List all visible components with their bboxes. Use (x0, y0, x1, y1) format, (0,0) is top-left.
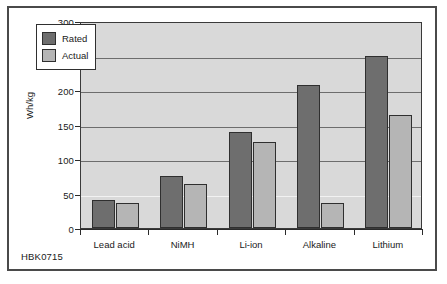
bar-actual-alkaline (321, 203, 344, 228)
y-axis-tick-label: 150 (58, 120, 74, 131)
y-axis-tick-label: 50 (63, 189, 74, 200)
legend-swatch-rated-icon (42, 32, 56, 45)
x-axis-label-li-ion: Li-ion (239, 239, 262, 250)
x-axis-label-lead-acid: Lead acid (94, 239, 135, 250)
x-axis-tick (217, 229, 218, 235)
bar-actual-lead-acid (116, 203, 139, 228)
bar-actual-nimh (184, 184, 207, 228)
x-axis-tick (285, 229, 286, 235)
bar-rated-nimh (160, 176, 183, 228)
x-axis-label-nimh: NiMH (171, 239, 195, 250)
x-axis-tick (422, 229, 423, 235)
figure-code: HBK0715 (21, 251, 63, 262)
y-axis-tick (75, 195, 80, 196)
legend-swatch-actual-icon (42, 49, 56, 62)
y-axis-tick-label: 100 (58, 155, 74, 166)
x-axis-tick (148, 229, 149, 235)
legend-item-actual: Actual (42, 47, 88, 64)
y-axis-tick-label: 200 (58, 86, 74, 97)
x-axis-line (80, 229, 422, 230)
x-axis-tick (80, 229, 81, 235)
y-axis-tick-label: 0 (69, 224, 74, 235)
y-axis-tick (75, 91, 80, 92)
bar-rated-lithium (365, 56, 388, 229)
bar-rated-lead-acid (92, 200, 115, 228)
bar-rated-li-ion (229, 132, 252, 228)
figure-frame: Wh/kg 050100150200250300 Lead acidNiMHLi… (7, 6, 437, 271)
x-axis-label-lithium: Lithium (372, 239, 403, 250)
x-axis-tick (354, 229, 355, 235)
chart-legend: Rated Actual (36, 24, 96, 70)
y-axis-title: Wh/kg (24, 76, 35, 136)
y-axis-tick (75, 229, 80, 230)
bars-layer (81, 23, 421, 228)
y-axis-tick (75, 22, 80, 23)
y-axis-tick (75, 126, 80, 127)
bar-actual-lithium (389, 115, 412, 228)
legend-label-actual: Actual (62, 50, 88, 61)
plot-area (80, 22, 422, 229)
x-axis-label-alkaline: Alkaline (303, 239, 336, 250)
legend-item-rated: Rated (42, 30, 88, 47)
bar-rated-alkaline (297, 85, 320, 228)
y-axis-tick (75, 160, 80, 161)
bar-actual-li-ion (253, 142, 276, 228)
legend-label-rated: Rated (62, 33, 87, 44)
